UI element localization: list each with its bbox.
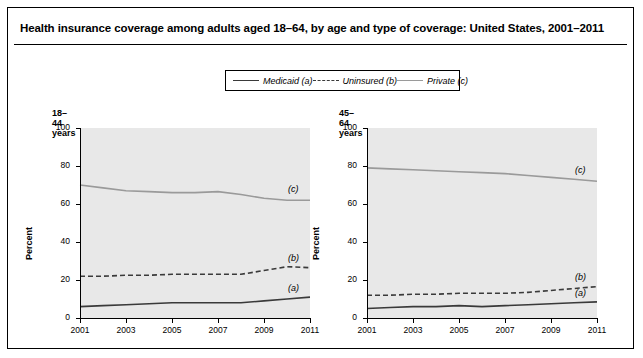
y-tick-label: 100	[337, 122, 357, 132]
legend-label-medicaid: Medicaid (a)	[263, 76, 313, 86]
x-tick-label: 2001	[67, 325, 93, 335]
series-line	[367, 302, 597, 309]
x-tick-mark	[310, 319, 311, 323]
x-tick-mark	[264, 319, 265, 323]
y-tick-mark	[76, 280, 80, 281]
legend-label-private: Private (c)	[427, 76, 468, 86]
legend-item-private: Private (c)	[397, 76, 468, 86]
y-axis-line	[80, 128, 81, 319]
series-annotation: (c)	[288, 184, 299, 194]
y-axis-line	[367, 128, 368, 319]
x-tick-label: 2011	[297, 325, 323, 335]
y-axis-label-right: Percent	[311, 227, 321, 260]
x-tick-mark	[367, 319, 368, 323]
y-tick-label: 80	[50, 160, 70, 170]
figure-page: Health insurance coverage among adults a…	[0, 0, 643, 358]
x-tick-mark	[413, 319, 414, 323]
x-tick-mark	[551, 319, 552, 323]
series-line	[80, 185, 310, 200]
x-tick-label: 2009	[251, 325, 277, 335]
plot-area-45-64	[367, 128, 597, 318]
series-annotation: (a)	[575, 288, 586, 298]
y-tick-label: 20	[50, 274, 70, 284]
y-tick-label: 60	[50, 198, 70, 208]
y-tick-label: 60	[337, 198, 357, 208]
x-tick-label: 2009	[538, 325, 564, 335]
x-axis-line	[367, 318, 598, 319]
y-tick-mark	[76, 128, 80, 129]
series-line	[367, 287, 597, 296]
y-tick-mark	[363, 166, 367, 167]
series-annotation: (b)	[288, 253, 299, 263]
y-tick-label: 40	[50, 236, 70, 246]
series-line	[367, 168, 597, 181]
legend-item-medicaid: Medicaid (a)	[233, 76, 313, 86]
x-tick-mark	[80, 319, 81, 323]
x-tick-mark	[597, 319, 598, 323]
x-tick-label: 2007	[205, 325, 231, 335]
x-tick-label: 2011	[584, 325, 610, 335]
x-tick-mark	[172, 319, 173, 323]
series-line	[80, 297, 310, 307]
y-axis-label-left: Percent	[24, 227, 34, 260]
x-tick-mark	[218, 319, 219, 323]
x-tick-label: 2007	[492, 325, 518, 335]
x-tick-mark	[126, 319, 127, 323]
x-tick-label: 2005	[446, 325, 472, 335]
y-tick-mark	[76, 242, 80, 243]
plot-area-18-44	[80, 128, 310, 318]
chart-legend: Medicaid (a) Uninsured (b) Private (c)	[225, 70, 460, 91]
y-tick-mark	[363, 204, 367, 205]
legend-item-uninsured: Uninsured (b)	[313, 76, 398, 86]
y-tick-label: 0	[50, 312, 70, 322]
series-annotation: (c)	[575, 165, 586, 175]
y-tick-mark	[363, 128, 367, 129]
plot-lines-18-44	[80, 128, 310, 318]
y-tick-mark	[76, 204, 80, 205]
y-tick-mark	[363, 280, 367, 281]
y-tick-label: 80	[337, 160, 357, 170]
x-axis-line	[80, 318, 311, 319]
y-tick-mark	[76, 166, 80, 167]
series-annotation: (b)	[575, 272, 586, 282]
legend-label-uninsured: Uninsured (b)	[343, 76, 398, 86]
legend-line-solid-icon	[233, 77, 259, 85]
x-tick-label: 2005	[159, 325, 185, 335]
x-tick-label: 2003	[113, 325, 139, 335]
x-tick-label: 2003	[400, 325, 426, 335]
legend-line-grey-icon	[397, 77, 423, 85]
y-tick-label: 0	[337, 312, 357, 322]
y-tick-label: 20	[337, 274, 357, 284]
series-annotation: (a)	[288, 283, 299, 293]
y-tick-label: 100	[50, 122, 70, 132]
y-tick-label: 40	[337, 236, 357, 246]
x-tick-mark	[459, 319, 460, 323]
y-tick-mark	[363, 242, 367, 243]
title-divider	[14, 44, 627, 45]
series-line	[80, 267, 310, 277]
x-tick-label: 2001	[354, 325, 380, 335]
legend-line-dashed-icon	[313, 77, 339, 85]
page-title: Health insurance coverage among adults a…	[20, 22, 620, 34]
x-tick-mark	[505, 319, 506, 323]
plot-lines-45-64	[367, 128, 597, 318]
